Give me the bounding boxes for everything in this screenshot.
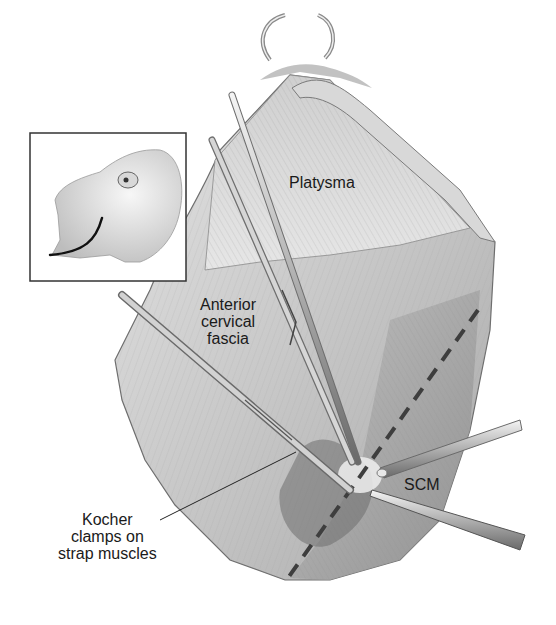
ring-retractor [263,15,333,60]
label-anterior-cervical-fascia: Anterior cervical fascia [200,296,256,347]
surgical-illustration: Platysma Anterior cervical fascia SCM Ko… [0,0,556,625]
label-scm: SCM [404,476,440,493]
label-kocher-clamps: Kocher clamps on strap muscles [58,511,157,562]
label-platysma: Platysma [289,174,355,191]
inset-head-diagram [30,133,186,281]
